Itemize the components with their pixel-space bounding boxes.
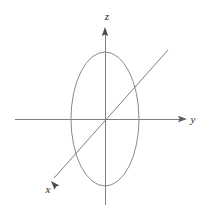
z-axis-group: z bbox=[102, 10, 110, 205]
z-axis-label: z bbox=[104, 10, 110, 22]
figure-container: y z x bbox=[0, 0, 205, 219]
x-axis-arrowhead bbox=[51, 181, 59, 190]
x-axis-label: x bbox=[45, 183, 51, 195]
y-axis-label: y bbox=[190, 113, 196, 125]
x-axis-group: x bbox=[45, 50, 168, 195]
coordinate-axes-diagram: y z x bbox=[0, 0, 205, 219]
